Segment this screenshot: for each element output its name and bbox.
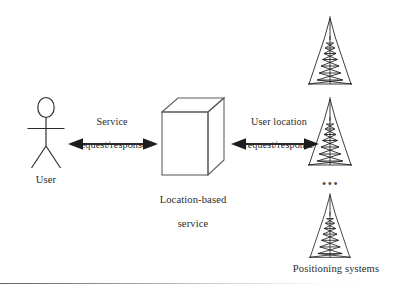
page-bottom-rule [0, 283, 396, 284]
tower-ellipsis: ••• [322, 178, 339, 190]
service-label-line1: Location-based [160, 194, 227, 205]
user-location-label-line1: User location [251, 116, 307, 127]
3d-cube-icon [160, 96, 226, 178]
radio-tower-icon [300, 97, 360, 171]
location-based-service-label: Location-based service [143, 182, 243, 229]
double-headed-horizontal-arrow-icon [68, 136, 158, 152]
service-label-line2: service [178, 218, 209, 229]
user-label: User [8, 174, 84, 186]
radio-tower-1 [300, 16, 360, 90]
service-request-label-line1: Service [96, 116, 127, 127]
radio-tower-icon [300, 193, 360, 263]
radio-tower-2 [300, 97, 360, 171]
figure-canvas: User Service request/response Location-b… [0, 0, 396, 292]
positioning-systems-label: Positioning systems [283, 263, 389, 275]
arrow-user-to-service [68, 136, 158, 152]
radio-tower-icon [300, 16, 360, 90]
location-based-service-node [160, 96, 226, 178]
radio-tower-3 [300, 193, 360, 263]
